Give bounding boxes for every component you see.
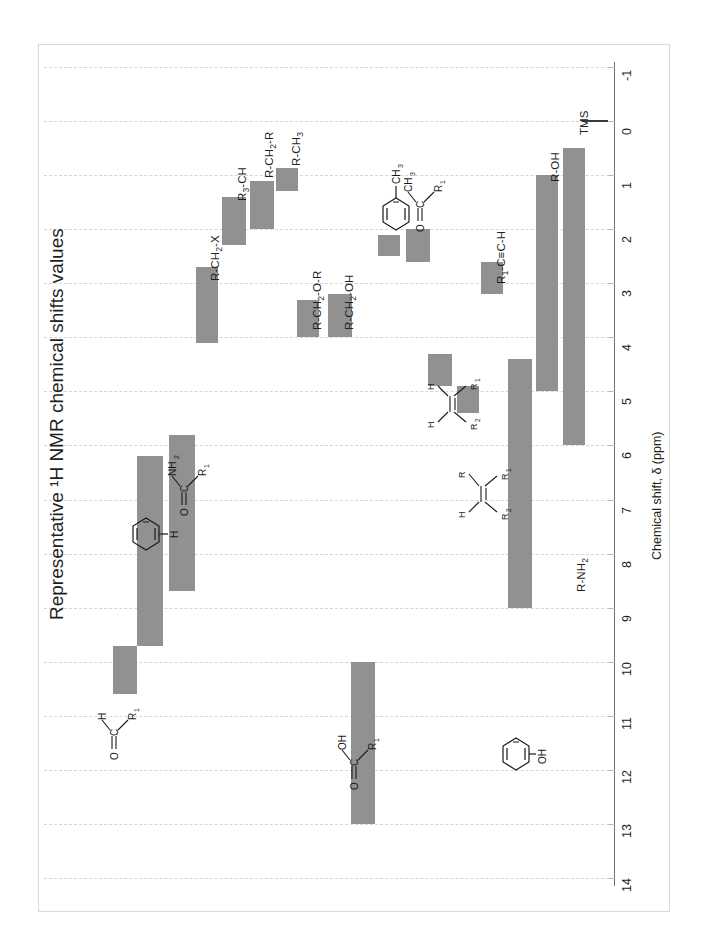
axis-tick-label: 0	[620, 95, 634, 135]
svg-text:H: H	[169, 531, 180, 538]
svg-text:OH: OH	[537, 749, 548, 764]
svg-text:O: O	[109, 752, 120, 760]
svg-text:1: 1	[373, 738, 380, 742]
svg-text:R: R	[500, 513, 510, 520]
tick-mark	[608, 824, 615, 825]
structure-amide: O C NH 2 R 1	[168, 438, 216, 516]
svg-text:R: R	[197, 469, 208, 476]
label-r-ch2-r: R-CH2-R	[263, 132, 278, 178]
nmr-chemical-shift-chart: -101234567891011121314 Chemical shift, δ…	[0, 0, 712, 950]
label-r-oh: R-OH	[549, 152, 561, 182]
svg-text:2: 2	[505, 508, 512, 512]
svg-text:C: C	[349, 759, 360, 766]
svg-text:H: H	[457, 512, 467, 519]
tick-mark	[608, 500, 615, 501]
structure-methyl-ketone: O C CH 3 R 1	[404, 158, 452, 232]
label-alkyne: R1-C≡C-H	[495, 231, 510, 284]
axis-tick-label: 10	[620, 636, 634, 676]
bar-r-ch2-r	[250, 181, 274, 230]
svg-text:C: C	[109, 729, 120, 736]
axis-tick-label: 11	[620, 690, 634, 730]
svg-text:O: O	[349, 782, 360, 790]
bar-r-ch3	[276, 168, 298, 191]
svg-text:C: C	[415, 201, 426, 208]
bar-r-nh2	[563, 148, 585, 445]
structure-phenol: OH	[498, 718, 546, 780]
svg-text:R: R	[469, 383, 479, 390]
axis-tick-label: 4	[620, 311, 634, 351]
label-r-ch2-x: R-CH2-X	[209, 235, 224, 281]
tick-mark	[608, 229, 615, 230]
gridline	[44, 878, 614, 879]
axis-tick-label: 1	[620, 149, 634, 189]
svg-text:2: 2	[474, 418, 481, 422]
label-tms: TMS	[578, 110, 590, 135]
svg-text:2: 2	[173, 455, 180, 459]
structure-alkene-trisubstituted: H R R 2 R 1	[455, 458, 511, 520]
tick-mark	[608, 337, 615, 338]
axis-tick-label: 14	[620, 852, 634, 892]
axis-tick-label: 5	[620, 365, 634, 405]
tick-mark	[608, 283, 615, 284]
bar-r-oh	[536, 175, 558, 391]
tick-mark	[608, 391, 615, 392]
axis-tick-label: 2	[620, 203, 634, 243]
svg-text:OH: OH	[337, 735, 348, 750]
axis-line	[614, 62, 615, 886]
bar-aldehyde	[113, 646, 137, 695]
tick-mark	[608, 67, 615, 68]
svg-text:H: H	[426, 384, 436, 391]
tick-mark	[608, 716, 615, 717]
gridline	[44, 337, 614, 338]
svg-text:H: H	[97, 713, 108, 720]
axis-tick-label: 3	[620, 257, 634, 297]
tick-mark	[608, 662, 615, 663]
tick-mark	[608, 878, 615, 879]
label-r-nh2: R-NH2	[575, 558, 590, 592]
axis-tick-label: 9	[620, 582, 634, 622]
svg-text:R: R	[127, 713, 138, 720]
gridline	[44, 67, 614, 68]
tick-mark	[608, 554, 615, 555]
axis-tick-label: -1	[620, 41, 634, 81]
label-r3-ch: R3-CH	[236, 167, 251, 201]
svg-text:NH: NH	[167, 462, 178, 476]
svg-text:3: 3	[409, 172, 416, 176]
svg-text:O: O	[179, 508, 190, 516]
svg-text:R: R	[433, 185, 444, 192]
svg-text:R: R	[367, 743, 378, 750]
structure-alkene-terminal: H H R 2 R 1	[424, 368, 480, 430]
label-r-ch3: R-CH3	[290, 132, 305, 166]
svg-text:1: 1	[474, 378, 481, 382]
svg-text:R: R	[469, 423, 479, 430]
svg-text:H: H	[426, 422, 436, 429]
structure-carboxylic-acid: O C OH R 1	[338, 714, 386, 790]
tick-mark	[608, 770, 615, 771]
svg-text:R: R	[457, 471, 467, 478]
svg-text:CH: CH	[391, 170, 402, 184]
gridline	[44, 229, 614, 230]
axis-title: Chemical shift, δ (ppm)	[650, 431, 664, 560]
gridline	[44, 283, 614, 284]
axis-tick-label: 12	[620, 744, 634, 784]
svg-text:1: 1	[133, 708, 140, 712]
svg-text:R: R	[500, 473, 510, 480]
axis-tick-label: 7	[620, 474, 634, 514]
gridline	[44, 175, 614, 176]
axis-tick-label: 13	[620, 798, 634, 838]
structure-aldehyde: O C H R 1	[98, 690, 146, 760]
label-r-ch2-oh: R-CH2-OH	[343, 275, 358, 330]
bar-phenol	[508, 359, 532, 608]
svg-text:3: 3	[397, 164, 404, 168]
tick-mark	[608, 175, 615, 176]
tick-mark	[608, 121, 615, 122]
axis-tick-label: 6	[620, 419, 634, 459]
gridline	[44, 824, 614, 825]
label-r-ch2-or: R-CH2-O-R	[311, 271, 326, 330]
svg-text:C: C	[179, 485, 190, 492]
bar-r3-ch	[222, 197, 246, 246]
tick-mark	[608, 445, 615, 446]
svg-text:1: 1	[439, 180, 446, 184]
svg-text:1: 1	[203, 464, 210, 468]
gridline	[44, 121, 614, 122]
